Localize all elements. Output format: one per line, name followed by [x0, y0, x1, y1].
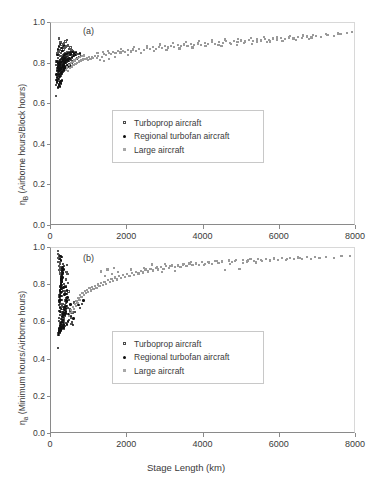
x-tick-mark: [203, 433, 204, 437]
y-tick-label: 0.6: [33, 316, 45, 326]
data-point-large: [277, 259, 279, 261]
data-point-turbofan: [62, 268, 64, 270]
legend-item[interactable]: Regional turbofan aircraft: [119, 130, 255, 144]
legend-item[interactable]: Large aircraft: [119, 143, 255, 157]
data-point-large: [299, 257, 301, 259]
data-point-large: [221, 261, 223, 263]
data-point-large: [325, 256, 327, 258]
data-point-turbofan: [79, 307, 81, 309]
data-point-large: [151, 263, 153, 265]
y-tick-label: 0.0: [33, 220, 45, 230]
data-point-large: [217, 262, 219, 264]
x-tick-mark: [50, 433, 51, 437]
panel-a-y-axis-label-text: (Airborne hours/Block hours): [17, 84, 27, 194]
data-point-turbofan: [66, 323, 68, 325]
data-point-large: [339, 33, 341, 35]
data-point-turbofan: [59, 80, 61, 82]
y-tick-mark: [47, 396, 51, 397]
data-point-large: [111, 273, 113, 275]
data-point-large: [315, 35, 317, 37]
data-point-large: [203, 264, 205, 266]
data-point-turbofan: [60, 256, 62, 258]
data-point-turboprop: [58, 37, 60, 39]
data-point-large: [174, 266, 176, 268]
y-tick-label: 0.0: [33, 428, 45, 438]
legend-item[interactable]: Regional turbofan aircraft: [119, 351, 255, 365]
data-point-large: [242, 262, 244, 264]
y-tick-mark: [47, 184, 51, 185]
data-point-large: [173, 46, 175, 48]
data-point-large: [142, 271, 144, 273]
data-point-large: [325, 33, 327, 35]
data-point-large: [162, 268, 164, 270]
x-tick-label: 8000: [345, 231, 365, 241]
data-point-large: [211, 263, 213, 265]
x-tick-label: 4000: [192, 439, 212, 449]
data-point-large: [108, 58, 110, 60]
data-point-large: [120, 48, 122, 50]
data-point-turbofan: [59, 285, 61, 287]
data-point-large: [310, 36, 312, 38]
data-point-turboprop: [65, 278, 67, 280]
data-point-large: [228, 259, 230, 261]
x-tick-label: 6000: [269, 439, 289, 449]
data-point-large: [214, 43, 216, 45]
x-tick-label: 4000: [192, 231, 212, 241]
data-point-large: [124, 276, 126, 278]
data-point-turbofan: [56, 54, 58, 56]
data-point-large: [157, 268, 159, 270]
data-point-turboprop: [67, 282, 69, 284]
data-point-large: [124, 51, 126, 53]
data-point-large: [109, 281, 111, 283]
legend-item[interactable]: Turboprop aircraft: [119, 116, 255, 130]
data-point-large: [147, 270, 149, 272]
x-tick-mark: [279, 433, 280, 437]
data-point-large: [242, 259, 244, 261]
data-point-large: [104, 275, 106, 277]
y-tick-mark: [47, 321, 51, 322]
data-point-large: [67, 70, 69, 72]
data-point-large: [273, 258, 275, 260]
data-point-large: [193, 44, 195, 46]
data-point-large: [164, 263, 166, 265]
gray-square-icon: [119, 369, 130, 372]
data-point-large: [233, 40, 235, 42]
data-point-large: [161, 47, 163, 49]
data-point-large: [103, 60, 105, 62]
x-tick-mark: [203, 225, 204, 229]
data-point-large: [255, 261, 257, 263]
open-square-icon: [119, 121, 130, 124]
data-point-large: [183, 43, 185, 45]
data-point-large: [153, 50, 155, 52]
panel-a-label: (a): [83, 26, 94, 36]
data-point-large: [208, 262, 210, 264]
y-tick-mark: [47, 359, 51, 360]
legend-item[interactable]: Turboprop aircraft: [119, 337, 255, 351]
x-tick-mark: [50, 225, 51, 229]
panel-a-legend: Turboprop aircraftRegional turbofan airc…: [112, 110, 264, 163]
data-point-large: [89, 58, 91, 60]
data-point-large: [138, 48, 140, 50]
data-point-large: [170, 45, 172, 47]
filled-circle-icon: [119, 356, 130, 359]
y-tick-label: 0.4: [33, 139, 45, 149]
legend-item[interactable]: Large aircraft: [119, 364, 255, 378]
data-point-large: [207, 43, 209, 45]
data-point-large: [146, 47, 148, 49]
data-point-large: [96, 52, 98, 54]
data-point-large: [130, 268, 132, 270]
data-point-large: [250, 37, 252, 39]
data-point-large: [158, 46, 160, 48]
panel-a-y-axis-label: ηB (Airborne hours/Block hours): [17, 84, 29, 205]
data-point-large: [156, 266, 158, 268]
data-point-large: [98, 285, 100, 287]
data-point-large: [198, 40, 200, 42]
data-point-turbofan: [64, 312, 66, 314]
y-tick-label: 1.0: [33, 242, 45, 252]
data-point-large: [105, 283, 107, 285]
data-point-turbofan: [77, 304, 79, 306]
data-point-large: [260, 259, 262, 261]
legend-item-label: Turboprop aircraft: [134, 339, 201, 349]
data-point-turbofan: [62, 271, 64, 273]
x-tick-label: 8000: [345, 439, 365, 449]
